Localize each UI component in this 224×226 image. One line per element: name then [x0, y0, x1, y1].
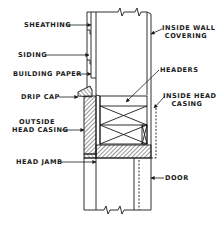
- door-opening: [84, 158, 151, 214]
- outside-head-casing: [84, 96, 96, 154]
- door-head-section-diagram: SHEATHING SIDING BUILDING PAPER DRIP CAP…: [0, 0, 224, 226]
- label-door: DOOR: [165, 174, 189, 182]
- drip-cap: [78, 86, 92, 97]
- label-head-jamb: HEAD JAMB: [16, 158, 63, 166]
- label-inside-wall-covering: INSIDE WALL COVERING: [162, 24, 210, 40]
- label-sheathing: SHEATHING: [24, 21, 71, 29]
- inside-head-casing: [151, 108, 156, 158]
- label-building-paper: BUILDING PAPER: [13, 70, 82, 78]
- label-inside-head-casing: INSIDE HEAD CASING: [163, 92, 211, 108]
- label-drip-cap: DRIP CAP: [21, 93, 60, 101]
- upper-wall: [87, 8, 151, 158]
- label-siding: SIDING: [18, 51, 47, 59]
- label-outside-head-casing: OUTSIDE HEAD CASING: [12, 118, 62, 134]
- label-headers: HEADERS: [160, 66, 198, 74]
